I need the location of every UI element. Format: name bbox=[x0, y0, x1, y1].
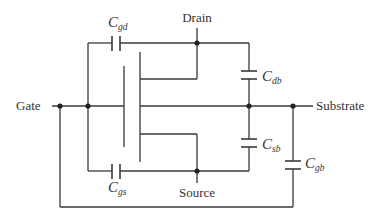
drain-node bbox=[194, 40, 199, 45]
cdb-label: Cdb bbox=[262, 68, 282, 86]
capacitor-cgs bbox=[88, 164, 249, 179]
gate-label: Gate bbox=[16, 98, 41, 113]
mosfet-capacitance-diagram: Gate Drain Source Substrate Cgd Cgs Cdb … bbox=[0, 0, 381, 220]
mosfet-symbol bbox=[124, 43, 313, 183]
source-label: Source bbox=[179, 185, 215, 200]
gate-node bbox=[57, 103, 62, 108]
substrate-node bbox=[290, 103, 295, 108]
cgd-label: Cgd bbox=[108, 14, 128, 32]
csb-label: Csb bbox=[262, 136, 281, 154]
cgb-label: Cgb bbox=[305, 155, 325, 173]
cgs-label: Cgs bbox=[108, 179, 127, 197]
substrate-label: Substrate bbox=[316, 98, 365, 113]
drain-net bbox=[194, 28, 199, 46]
capacitor-cdb bbox=[241, 43, 257, 106]
substrate-junction-node bbox=[246, 103, 251, 108]
gate-junction-node bbox=[85, 103, 90, 108]
capacitor-csb bbox=[241, 106, 257, 171]
capacitor-cgd bbox=[88, 36, 249, 51]
source-node bbox=[194, 168, 199, 173]
drain-label: Drain bbox=[182, 10, 212, 25]
